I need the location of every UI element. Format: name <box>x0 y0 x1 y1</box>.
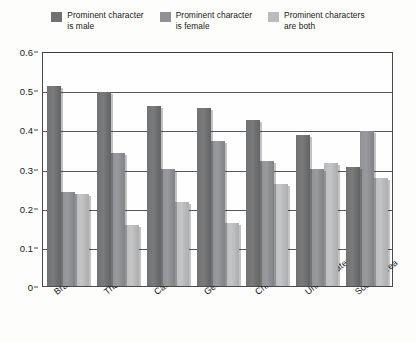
y-tick-mark <box>34 169 38 170</box>
y-tick-mark <box>34 52 38 53</box>
legend-label: Prominent characters are both <box>284 10 365 31</box>
y-tick-mark <box>34 130 38 131</box>
bar <box>374 178 388 286</box>
y-tick-label: 0.4 <box>20 125 33 136</box>
legend-female: Prominent character is female <box>160 10 252 42</box>
bar-group <box>292 53 342 286</box>
legend-swatch-icon <box>268 12 279 22</box>
bar-group <box>242 53 292 286</box>
y-tick-label: 0.1 <box>20 242 33 253</box>
y-tick-mark <box>34 91 38 92</box>
bar <box>147 106 161 286</box>
legend-both: Prominent characters are both <box>268 10 365 42</box>
bar <box>310 169 324 287</box>
bar-group <box>342 53 392 286</box>
bar <box>125 225 139 286</box>
y-tick-mark <box>34 287 38 288</box>
bar <box>260 161 274 286</box>
bar <box>161 169 175 287</box>
bar <box>211 141 225 286</box>
bar-group <box>43 53 93 286</box>
bar <box>197 108 211 286</box>
legend-label: Prominent character is male <box>67 10 143 31</box>
bar <box>175 202 189 286</box>
bar <box>246 120 260 286</box>
bar <box>61 192 75 286</box>
chart-legend: Prominent character is maleProminent cha… <box>0 10 416 42</box>
legend-swatch-icon <box>160 12 171 22</box>
bar-group <box>143 53 193 286</box>
bar <box>97 92 111 286</box>
x-axis: BrazilThailandCanadaGermanyChinaUnited S… <box>42 287 393 343</box>
bar-group <box>93 53 143 286</box>
bar <box>324 163 338 286</box>
plot-area <box>42 52 393 287</box>
y-tick-label: 0.2 <box>20 203 33 214</box>
bar <box>111 153 125 286</box>
bar <box>225 223 239 286</box>
y-tick-mark <box>34 208 38 209</box>
y-axis: 0.60.50.40.30.20.10 <box>0 52 38 287</box>
bar <box>296 135 310 286</box>
bar <box>346 167 360 286</box>
bar <box>274 184 288 286</box>
legend-male: Prominent character is male <box>51 10 143 42</box>
bar-group <box>193 53 243 286</box>
y-tick-label: 0.6 <box>20 47 33 58</box>
y-tick-mark <box>34 247 38 248</box>
legend-swatch-icon <box>51 12 62 22</box>
bar <box>47 86 61 286</box>
bar <box>75 194 89 286</box>
y-tick-label: 0 <box>28 282 33 293</box>
legend-label: Prominent character is female <box>176 10 252 31</box>
y-tick-label: 0.3 <box>20 164 33 175</box>
bar <box>360 131 374 286</box>
bars-layer <box>43 53 392 286</box>
y-tick-label: 0.5 <box>20 86 33 97</box>
